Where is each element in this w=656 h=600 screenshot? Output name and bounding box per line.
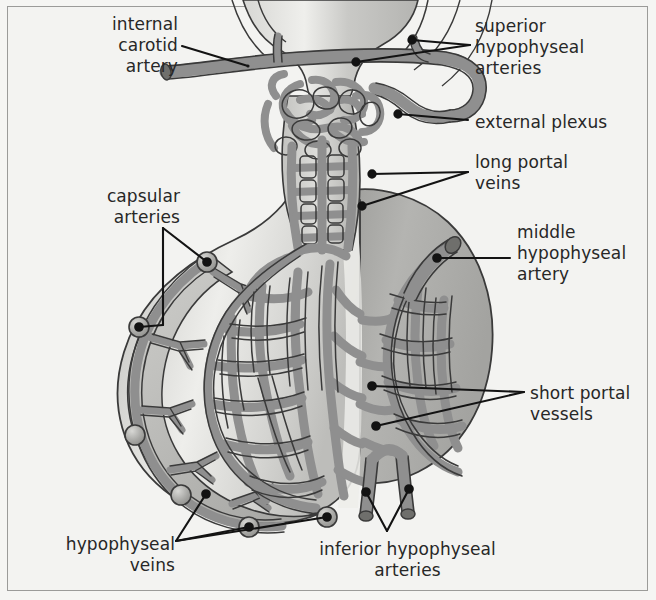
label-short-portal-vessels: short portal vessels [530,383,655,425]
leader-dot [203,258,211,266]
label-superior-hypophyseal-arteries: superior hypophyseal arteries [475,16,645,79]
leader-dot [394,110,401,117]
leader-dot [202,490,210,498]
vein-node [125,425,145,445]
leader-dot [362,488,370,496]
label-inferior-hypophyseal-arteries: inferior hypophyseal arteries [300,539,515,581]
leader-dot [433,254,441,262]
leader-dot [352,58,359,65]
leader-dot [248,66,249,67]
inferior-hypophyseal-artery-right-cut-end [401,509,415,519]
leader-dot [408,36,415,43]
label-long-portal-veins: long portal veins [475,152,625,194]
carotid-ascending-branch [277,36,278,62]
anatomical-diagram [0,0,656,600]
leader-capsular-a [163,228,207,262]
inferior-hypophyseal-artery-left [366,460,372,514]
label-capsular-arteries: capsular arteries [95,186,180,228]
leader-dot [405,485,413,493]
label-hypophyseal-veins: hypophyseal veins [35,534,175,576]
superior-artery-descending [374,88,450,118]
inferior-hypophyseal-artery-right [402,456,408,512]
leader-superior-hypophyseal [412,40,470,45]
leader-dot [372,422,380,430]
leader-dot [323,513,331,521]
label-external-plexus: external plexus [475,112,650,133]
leader-dot [368,170,375,177]
leader-dot [368,382,376,390]
vein-node [171,485,191,505]
leader-long-portal-a [372,172,468,174]
leader-dot [358,202,365,209]
label-middle-hypophyseal-artery: middle hypophyseal artery [517,222,652,285]
label-internal-carotid-artery: internal carotid artery [58,14,178,77]
figure-root: internal carotid artery capsular arterie… [0,0,656,600]
leader-dot [135,323,143,331]
inferior-hypophyseal-artery-left-cut-end [359,511,373,521]
